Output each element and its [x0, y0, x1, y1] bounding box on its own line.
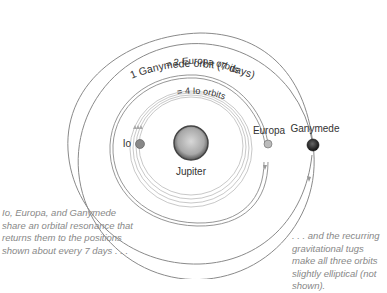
io-label: Io — [123, 138, 132, 149]
io-orbits-label: = 4 Io orbits — [176, 86, 227, 102]
jupiter-planet — [174, 126, 208, 160]
io-orbit-arrows — [133, 125, 143, 129]
europa-label: Europa — [253, 125, 286, 136]
ganymede-moon — [307, 139, 319, 151]
jupiter-label: Jupiter — [176, 166, 207, 177]
resonance-note: Io, Europa, and Ganymede share an orbita… — [2, 207, 142, 257]
elliptical-orbits-note: . . . and the recurring gravitational tu… — [292, 230, 387, 293]
europa-moon — [264, 140, 272, 148]
ganymede-label: Ganymede — [291, 123, 340, 134]
io-moon — [136, 140, 145, 149]
